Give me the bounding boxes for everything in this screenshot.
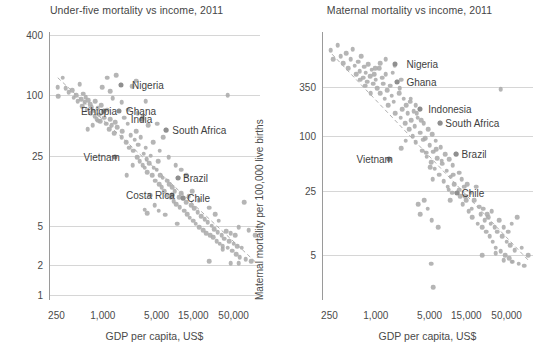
data-point	[409, 96, 414, 101]
data-point	[447, 157, 452, 162]
data-point	[389, 93, 394, 98]
data-point	[100, 85, 105, 90]
data-point	[163, 212, 168, 217]
data-point	[125, 121, 130, 126]
country-annotation: Ghana	[406, 76, 436, 87]
data-point	[465, 182, 470, 187]
data-point	[207, 259, 212, 264]
highlighted-data-point	[164, 128, 169, 133]
data-point	[459, 177, 464, 182]
data-point	[249, 259, 254, 264]
data-point	[480, 253, 485, 258]
data-point	[470, 215, 475, 220]
country-annotation: Nigeria	[406, 59, 438, 70]
data-point	[419, 118, 424, 123]
chart-title-right: Maternal mortality vs income, 2011	[273, 4, 546, 16]
data-point	[378, 91, 383, 96]
data-point	[130, 163, 135, 168]
data-point	[233, 233, 238, 238]
data-point	[401, 96, 406, 101]
data-point	[509, 260, 514, 265]
highlighted-data-point	[181, 195, 186, 200]
data-point	[56, 94, 61, 99]
data-point	[237, 255, 242, 260]
y-tick-label: 1	[5, 290, 43, 301]
highlighted-data-point	[116, 108, 121, 113]
y-axis-label: Maternal mortality per 100,000 live birt…	[254, 119, 265, 300]
data-point	[441, 179, 446, 184]
data-point	[119, 100, 124, 105]
data-point	[141, 152, 146, 157]
data-point	[335, 43, 340, 48]
x-tick-label: 15,000	[451, 310, 482, 321]
data-point	[443, 152, 448, 157]
data-point	[493, 251, 498, 256]
data-point	[506, 229, 511, 234]
data-point	[120, 129, 125, 134]
data-point	[486, 215, 491, 220]
data-point	[125, 173, 130, 178]
data-point	[77, 82, 82, 87]
country-annotation: South Africa	[445, 118, 499, 129]
data-point	[156, 209, 161, 214]
data-point	[393, 111, 398, 116]
data-point	[509, 221, 514, 226]
data-point	[111, 96, 116, 101]
data-point	[431, 177, 436, 182]
data-point	[384, 57, 389, 62]
data-point	[356, 59, 361, 64]
y-tick-label: 25	[5, 150, 43, 161]
plot-area-left: 400100255212501,0005,00015,00050,000GDP …	[49, 32, 260, 300]
x-tick-label: 15,000	[178, 310, 209, 321]
x-tick-label: 250	[321, 310, 338, 321]
x-axis-label: GDP per capita, US$	[106, 330, 204, 342]
panel-maternal-mortality: Maternal mortality vs income, 2011 35010…	[273, 0, 546, 354]
data-point	[142, 207, 147, 212]
gridline-y	[322, 255, 533, 256]
highlighted-data-point	[118, 82, 123, 87]
data-point	[398, 86, 403, 91]
y-tick-label: 5	[5, 220, 43, 231]
data-point	[372, 72, 377, 77]
data-point	[246, 228, 251, 233]
data-point	[437, 172, 442, 177]
data-point	[412, 124, 417, 129]
data-point	[430, 132, 435, 137]
data-point	[213, 212, 218, 217]
data-point	[472, 198, 477, 203]
data-point	[132, 137, 137, 142]
data-point	[226, 93, 231, 98]
data-point	[429, 261, 434, 266]
y-tick-label: 350	[278, 81, 316, 92]
data-point	[143, 145, 148, 150]
data-point	[154, 168, 159, 173]
data-point	[446, 187, 451, 192]
data-point	[350, 47, 355, 52]
data-point	[397, 91, 402, 96]
data-point	[236, 261, 241, 266]
data-point	[143, 99, 148, 104]
country-annotation: Vietnam	[356, 154, 393, 165]
data-point	[409, 118, 414, 123]
data-point	[70, 88, 75, 93]
data-point	[374, 77, 379, 82]
data-point	[240, 245, 245, 250]
gridline-y	[49, 226, 260, 227]
data-point	[151, 140, 156, 145]
data-point	[147, 161, 152, 166]
data-point	[112, 131, 117, 136]
data-point	[448, 198, 453, 203]
data-point	[457, 170, 462, 175]
plot-area-right: 3501002552501,0005,00015,00050,000GDP pe…	[322, 32, 533, 300]
data-point	[497, 218, 502, 223]
data-point	[216, 218, 221, 223]
data-point	[220, 247, 225, 252]
data-point	[175, 222, 180, 227]
data-point	[114, 73, 119, 78]
highlighted-data-point	[417, 106, 422, 111]
data-point	[229, 261, 234, 266]
data-point	[416, 202, 421, 207]
data-point	[439, 145, 444, 150]
data-point	[410, 134, 415, 139]
data-point	[242, 200, 247, 205]
